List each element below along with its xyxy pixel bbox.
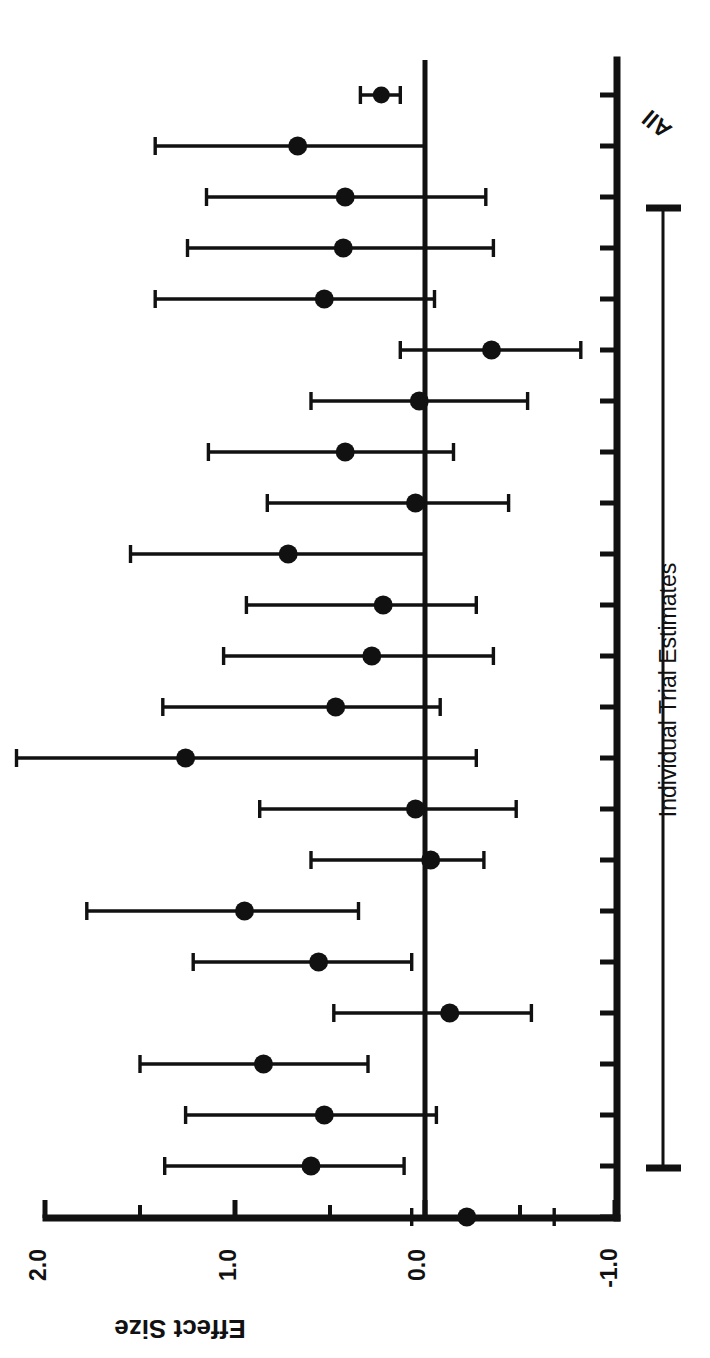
trial-estimate-marker — [336, 443, 355, 462]
tick-label-neg1: -1.0 — [596, 1248, 622, 1288]
tick-label-1: 1.0 — [215, 1249, 241, 1281]
trial-row — [207, 188, 486, 207]
trial-estimate-marker — [482, 341, 501, 360]
trial-estimate-marker — [362, 647, 381, 666]
trial-row — [186, 1106, 437, 1125]
trial-row — [155, 137, 425, 156]
trial-row — [267, 494, 508, 513]
trial-row — [87, 902, 359, 921]
trial-row — [193, 953, 412, 972]
trial-estimate-marker — [326, 698, 345, 717]
forest-plot-figure: Individual Trial Estimates All 2.0 1.0 0… — [0, 0, 710, 1358]
trial-row — [260, 800, 517, 819]
trial-estimate-marker — [334, 239, 353, 258]
trial-estimate-marker — [410, 392, 429, 411]
group-bracket: Individual Trial Estimates — [646, 208, 681, 1168]
trial-estimate-marker — [288, 137, 307, 156]
trial-estimate-marker — [421, 851, 440, 870]
trial-row — [334, 1004, 532, 1023]
trial-row — [140, 1055, 368, 1074]
tick-label-2: 2.0 — [25, 1249, 51, 1281]
forest-rows — [17, 86, 581, 1227]
value-axis-title: Effect Size — [114, 1314, 246, 1344]
trial-estimate-marker — [315, 1106, 334, 1125]
trial-estimate-marker — [279, 545, 298, 564]
trial-row — [311, 392, 528, 411]
trial-estimate-marker — [176, 749, 195, 768]
trial-row — [412, 1208, 555, 1227]
trial-row — [165, 1157, 404, 1176]
trial-row — [17, 749, 477, 768]
trial-row — [208, 443, 453, 462]
summary-estimate-marker — [373, 87, 390, 104]
trial-row — [155, 290, 434, 309]
trial-row — [163, 698, 440, 717]
trial-row — [246, 596, 476, 615]
trial-estimate-marker — [309, 953, 328, 972]
trial-row — [311, 851, 484, 870]
trial-estimate-marker — [440, 1004, 459, 1023]
trial-estimate-marker — [315, 290, 334, 309]
trial-estimate-marker — [254, 1055, 273, 1074]
forest-plot-svg: Individual Trial Estimates All 2.0 1.0 0… — [0, 0, 710, 1358]
trial-estimate-marker — [302, 1157, 321, 1176]
trial-row — [224, 647, 494, 666]
group-bracket-label: Individual Trial Estimates — [655, 563, 681, 817]
trial-estimate-marker — [336, 188, 355, 207]
trial-estimate-marker — [374, 596, 393, 615]
trial-estimate-marker — [457, 1208, 476, 1227]
trial-row — [131, 545, 426, 564]
trial-estimate-marker — [235, 902, 254, 921]
summary-row-label: All — [637, 105, 676, 144]
trial-estimate-marker — [406, 800, 425, 819]
trial-estimate-marker — [406, 494, 425, 513]
tick-label-0: 0.0 — [404, 1249, 430, 1281]
trial-row — [188, 239, 494, 258]
category-axis — [600, 60, 617, 1218]
summary-row — [360, 86, 400, 104]
